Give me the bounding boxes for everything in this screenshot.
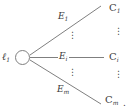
trailing-period: . (123, 98, 126, 108)
edge-label-em-subscript: m (64, 88, 70, 95)
vertical-ellipsis-leaves-lower: ⋮ (114, 70, 123, 79)
root-node-label-subscript: 1 (6, 56, 10, 63)
leaf-label-cm-base: C (105, 94, 113, 105)
root-node-label: ℓ1 (2, 52, 10, 62)
leaf-label-ci-base: C (109, 51, 117, 62)
vertical-ellipsis-edges-lower: ⋮ (68, 68, 77, 77)
leaf-label-ci-subscript: i (117, 56, 119, 63)
edge-label-e1-subscript: 1 (65, 15, 69, 22)
edge-label-em-base: E (57, 84, 64, 94)
edge-label-ei-base: E (59, 51, 66, 61)
leaf-label-c1-subscript: 1 (117, 7, 121, 14)
leaf-label-cm-subscript: m (113, 99, 119, 106)
edge-label-e1-base: E (58, 11, 65, 21)
vertical-ellipsis-edges-upper: ⋮ (68, 31, 77, 40)
vertical-ellipsis-leaves-upper: ⋮ (114, 27, 123, 36)
edge-label-ei-subscript: i (66, 55, 68, 62)
leaf-label-c1-base: C (109, 2, 117, 13)
diagram-canvas: ℓ1 E1 Ei Em C1 Ci Cm ⋮ ⋮ ⋮ ⋮ . (0, 0, 130, 112)
edge-label-ei: Ei (58, 52, 69, 61)
edge-label-e1: E1 (57, 12, 69, 21)
edge-line-em (30, 60, 101, 104)
leaf-label-cm: Cm (104, 95, 119, 105)
leaf-label-c1: C1 (108, 3, 121, 13)
leaf-label-ci: Ci (108, 52, 120, 62)
root-node-circle (16, 51, 30, 65)
edge-label-em: Em (56, 85, 70, 94)
